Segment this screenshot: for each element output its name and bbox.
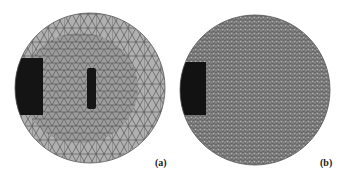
panel-b-label: (b) [320, 157, 332, 168]
panel-b-mesh [180, 15, 330, 165]
dense-block-a [15, 58, 43, 115]
panel-a-label: (a) [155, 157, 167, 168]
panel-a-mesh [15, 13, 165, 163]
dense-block-b [180, 62, 206, 115]
mesh-figure [0, 0, 349, 182]
dense-slot-a [87, 68, 96, 109]
